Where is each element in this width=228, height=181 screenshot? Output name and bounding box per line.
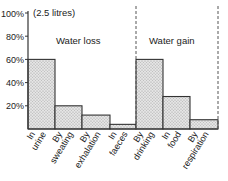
bar-by-drinking [136,59,163,129]
bar-in-urine [28,59,55,129]
y-tick-label: 40% [6,78,24,88]
y-tick-label: 60% [6,55,24,65]
y-tick-label: 80% [6,32,24,42]
unit-note: (2.5 litres) [33,7,75,18]
bar-by-sweating [55,106,82,129]
bar-in-faeces [110,124,136,129]
bar-in-food [163,97,190,129]
chart-canvas: 20%40%60%80%100% InurineBysweatingByexha… [0,0,228,181]
bar-by-exhalation [82,115,110,129]
group-label-water-loss: Water loss [56,35,101,46]
y-tick-label: 20% [6,101,24,111]
bars-group [28,59,218,129]
group-label-water-gain: Water gain [149,35,195,46]
bar-by-respiration [190,120,218,129]
water-balance-chart: 20%40%60%80%100% InurineBysweatingByexha… [0,0,228,181]
y-tick-label: 100% [1,9,24,19]
x-axis-labels: InurineBysweatingByexhalationInfaecesByd… [25,129,211,170]
